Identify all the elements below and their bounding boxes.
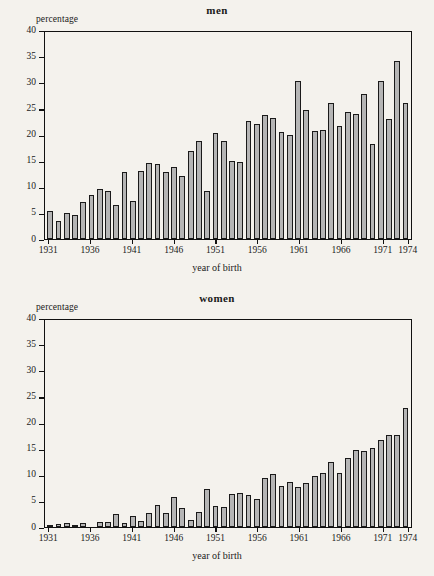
y-axis-label-men: percentage — [36, 14, 78, 24]
bar — [105, 191, 111, 239]
bar — [328, 462, 334, 527]
bar-cell — [220, 320, 228, 527]
x-tick-mark — [257, 240, 258, 244]
x-tick-label: 1956 — [248, 533, 267, 543]
y-tick-label: 10 — [27, 181, 37, 191]
bar — [353, 450, 359, 527]
bar — [171, 497, 177, 527]
bar-cell — [393, 320, 401, 527]
bar — [196, 512, 202, 527]
x-tick-mark — [299, 240, 300, 244]
y-tick-label: 35 — [27, 51, 37, 61]
bar-cell — [286, 32, 294, 239]
bar-cell — [187, 32, 195, 239]
bar-cell — [203, 320, 211, 527]
bar — [328, 103, 334, 239]
bar-cell — [54, 32, 62, 239]
bar — [213, 133, 219, 239]
bar — [204, 191, 210, 239]
bar-cell — [129, 32, 137, 239]
bar — [370, 448, 376, 527]
x-tick-mark — [215, 528, 216, 532]
x-tick-mark — [48, 240, 49, 244]
bar — [262, 478, 268, 527]
bar — [163, 172, 169, 239]
x-tick-mark — [299, 528, 300, 532]
bar-cell — [335, 320, 343, 527]
bar — [295, 81, 301, 239]
bar — [361, 94, 367, 239]
x-axis-label-men: year of birth — [0, 262, 434, 273]
bar — [105, 522, 111, 527]
bar — [337, 473, 343, 527]
x-tick-mark — [341, 528, 342, 532]
bar-cell — [137, 32, 145, 239]
bar — [80, 202, 86, 239]
bar-cell — [112, 32, 120, 239]
x-tick-label: 1951 — [206, 245, 225, 255]
bar-cell — [327, 32, 335, 239]
x-tick-mark — [215, 240, 216, 244]
bar-cell — [277, 320, 285, 527]
bar-cell — [96, 32, 104, 239]
bar — [179, 176, 185, 239]
bar-cell — [385, 320, 393, 527]
bar — [204, 489, 210, 527]
bar-cell — [153, 320, 161, 527]
bar-cell — [294, 320, 302, 527]
bar-cell — [104, 320, 112, 527]
bar-cell — [54, 320, 62, 527]
bar — [403, 408, 409, 527]
x-tick-mark — [174, 528, 175, 532]
y-axis-ticks-women: 0510152025303540 — [0, 319, 44, 528]
bar-cell — [311, 32, 319, 239]
bar-cell — [368, 320, 376, 527]
bar — [262, 115, 268, 239]
x-tick-mark — [132, 240, 133, 244]
bar-cell — [393, 32, 401, 239]
bar — [279, 132, 285, 239]
y-tick-label: 5 — [31, 207, 36, 217]
bar-cell — [244, 320, 252, 527]
bar-cell — [335, 32, 343, 239]
bar — [312, 131, 318, 239]
plot-area-women — [44, 319, 412, 528]
x-tick-label: 1931 — [39, 533, 58, 543]
bar-cell — [286, 320, 294, 527]
x-axis-ticks-men: 1931193619411946195119561961196619711974 — [44, 240, 412, 262]
bar — [237, 162, 243, 239]
bar — [320, 473, 326, 527]
bar-cell — [162, 320, 170, 527]
x-tick-label: 1941 — [122, 533, 141, 543]
bar-cell — [79, 320, 87, 527]
x-tick-label: 1946 — [164, 245, 183, 255]
y-tick-label: 20 — [27, 129, 37, 139]
bar-cell — [302, 320, 310, 527]
bar-cell — [153, 32, 161, 239]
bar-cell — [360, 32, 368, 239]
bar — [378, 81, 384, 239]
bar — [122, 523, 128, 527]
bar-cell — [360, 320, 368, 527]
bar — [361, 451, 367, 527]
y-tick-label: 25 — [27, 103, 37, 113]
bar — [47, 525, 53, 527]
y-tick-label: 35 — [27, 339, 37, 349]
bar — [386, 435, 392, 527]
bar — [303, 483, 309, 527]
x-tick-label: 1974 — [398, 533, 417, 543]
x-tick-label: 1966 — [331, 245, 350, 255]
x-tick-label: 1971 — [373, 533, 392, 543]
bar-cell — [87, 32, 95, 239]
x-tick-mark — [408, 528, 409, 532]
bar-cell — [236, 32, 244, 239]
bar — [221, 507, 227, 527]
x-tick-mark — [48, 528, 49, 532]
bar-cell — [253, 32, 261, 239]
bar-cell — [344, 320, 352, 527]
bar — [246, 121, 252, 239]
bar — [246, 495, 252, 527]
y-tick-label: 0 — [31, 522, 36, 532]
x-tick-label: 1966 — [331, 533, 350, 543]
bar-cell — [327, 320, 335, 527]
